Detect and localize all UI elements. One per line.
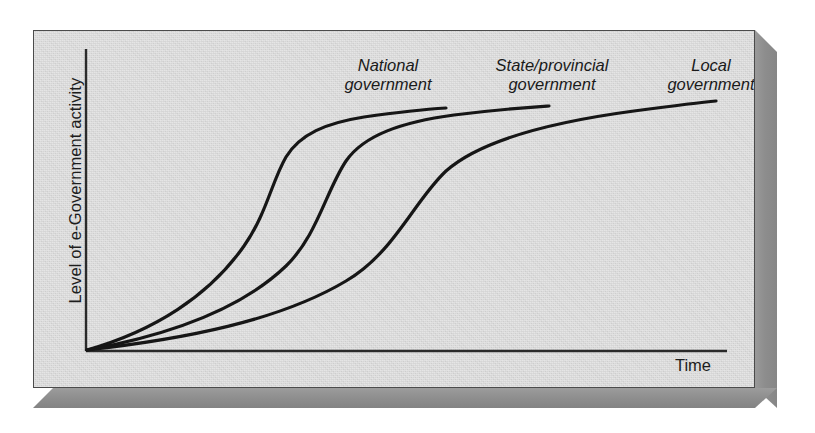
curve-state-provincial-government xyxy=(87,106,549,350)
y-axis-title: Level of e-Government activity xyxy=(66,66,85,316)
series-label-national-line2: government xyxy=(322,75,454,94)
panel-bevel-bottom xyxy=(33,388,777,408)
panel-bevel-right xyxy=(755,30,777,408)
series-label-national-line1: National xyxy=(358,56,419,74)
series-label-state-line2: government xyxy=(466,75,638,94)
series-label-local-government: Local government xyxy=(647,56,755,94)
x-axis-title: Time xyxy=(654,356,732,375)
series-label-state-line1: State/provincial xyxy=(496,56,609,74)
curve-local-government xyxy=(87,101,716,350)
series-label-local-line2: government xyxy=(647,75,755,94)
curve-national-government xyxy=(87,108,446,350)
figure-container: Level of e-Government activity Time Nati… xyxy=(0,0,815,433)
chart-panel: Level of e-Government activity Time Nati… xyxy=(33,30,755,388)
series-label-national-government: National government xyxy=(322,56,454,94)
series-label-local-line1: Local xyxy=(691,56,730,74)
series-label-state-provincial-government: State/provincial government xyxy=(466,56,638,94)
